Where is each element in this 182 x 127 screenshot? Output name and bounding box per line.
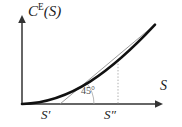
cost-curve-plot [0, 0, 182, 127]
tick-label-s-double-prime: S″ [104, 108, 116, 121]
tangent-45-line [60, 27, 152, 104]
y-axis-label: CE(S) [28, 4, 61, 19]
x-axis-arrowhead [155, 100, 163, 108]
figure-container: CE(S) S S′ S″ 45° [0, 0, 182, 127]
x-axis-label: S [160, 79, 167, 93]
angle-label-45: 45° [81, 86, 95, 96]
y-axis-label-argument: (S) [44, 3, 62, 19]
y-axis [18, 15, 26, 104]
y-axis-arrowhead [18, 15, 26, 23]
tick-label-s-prime: S′ [41, 108, 50, 121]
y-axis-label-base: C [28, 3, 38, 19]
